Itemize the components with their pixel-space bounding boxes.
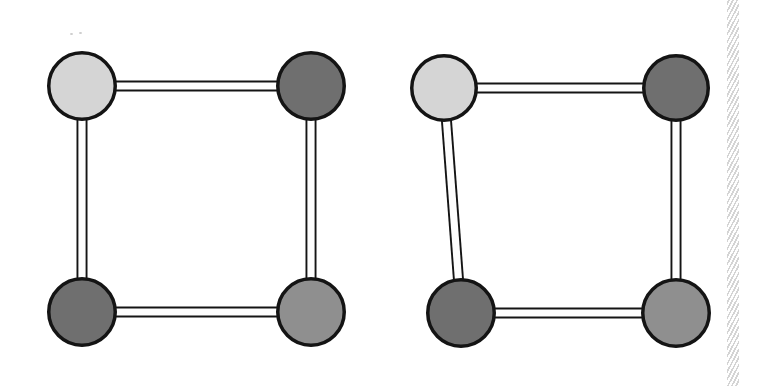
edges-layer [444, 88, 676, 313]
graph-node [643, 280, 710, 347]
graph-node [49, 279, 116, 346]
graph-node [428, 280, 495, 347]
graph-left [49, 53, 345, 346]
edges-layer [82, 86, 311, 312]
graph-figure-canvas [0, 0, 764, 386]
graph-node [278, 279, 345, 346]
graph-right [412, 56, 710, 347]
graph-node [412, 56, 477, 121]
nodes-layer [49, 53, 345, 346]
graph-node [278, 53, 345, 120]
graph-node [49, 53, 116, 120]
graph-node [644, 56, 709, 121]
figure-root: Two four-node square graphs [0, 0, 764, 386]
graphs-layer [49, 53, 710, 347]
